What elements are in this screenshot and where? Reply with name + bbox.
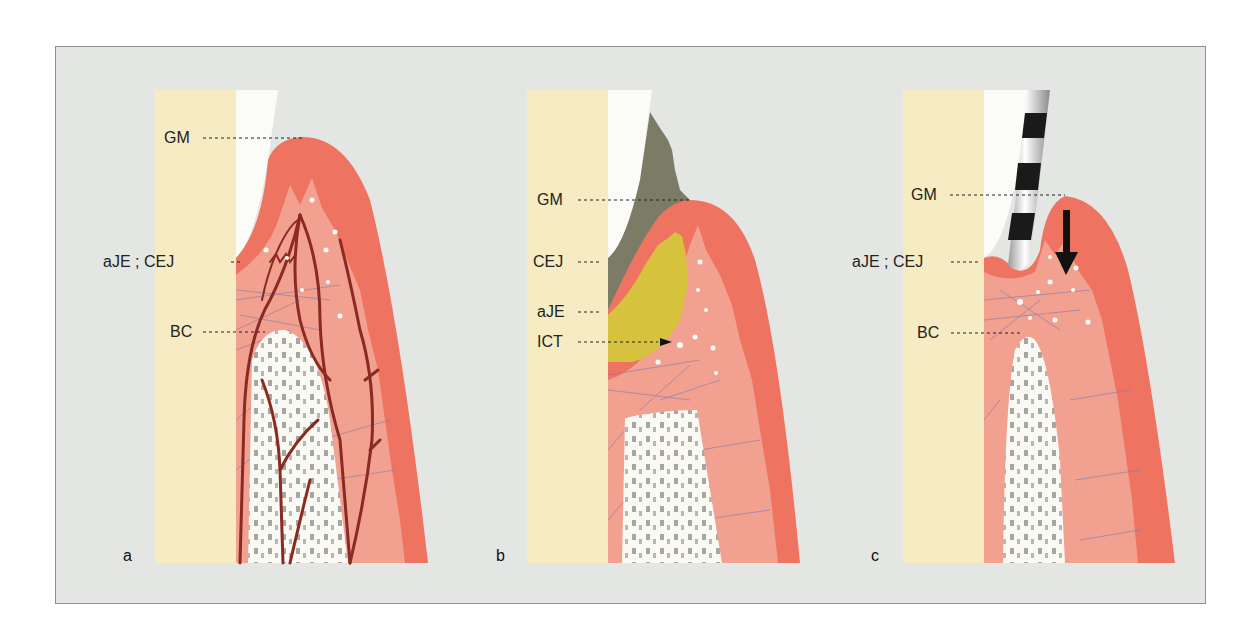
label-b-gm: GM (537, 192, 563, 208)
dentin (903, 90, 984, 563)
label-c-bc: BC (917, 325, 939, 341)
panel-c (903, 90, 1175, 563)
label-a-gm: GM (164, 130, 190, 146)
panel-a (155, 90, 428, 563)
label-b-cej: CEJ (533, 254, 563, 270)
dentin (155, 90, 236, 563)
label-b-aje: aJE (537, 304, 565, 320)
panel-b (527, 90, 800, 563)
label-c-aje-cej: aJE ; CEJ (852, 254, 923, 270)
dentin (527, 90, 608, 563)
panel-letter-c: c (871, 547, 879, 565)
label-a-aje-cej: aJE ; CEJ (103, 254, 174, 270)
label-c-gm: GM (911, 187, 937, 203)
periodontal-diagram (0, 0, 1259, 629)
label-a-bc: BC (170, 324, 192, 340)
panel-letter-b: b (496, 547, 505, 565)
label-b-ict: ICT (537, 334, 563, 350)
panel-letter-a: a (123, 547, 132, 565)
